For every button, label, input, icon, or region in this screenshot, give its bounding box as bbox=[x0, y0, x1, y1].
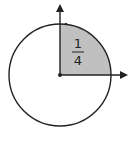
fraction-denominator: 4 bbox=[74, 53, 82, 68]
fraction-numerator: 1 bbox=[74, 36, 82, 51]
center-point bbox=[58, 73, 62, 77]
shaded-quarter bbox=[60, 24, 111, 75]
top-point bbox=[65, 23, 67, 25]
quarter-circle-diagram: 1 4 bbox=[0, 0, 134, 141]
